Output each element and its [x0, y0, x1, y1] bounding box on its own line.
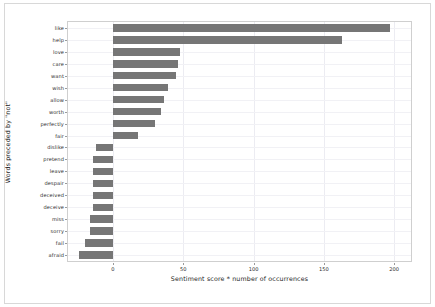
bar: [79, 251, 113, 258]
y-axis-tick-label: fair: [55, 133, 64, 139]
bar: [113, 72, 176, 79]
x-axis-tick-label: 100: [249, 266, 259, 272]
y-axis-tick-label: help: [53, 37, 64, 43]
gridline-horizontal: [68, 195, 411, 196]
bar: [113, 96, 164, 103]
bar: [113, 108, 161, 115]
y-axis-tick-label: deceive: [43, 204, 64, 210]
bar: [90, 215, 112, 222]
x-axis-tick-labels: 050100150200: [67, 263, 412, 275]
gridline-horizontal: [68, 219, 411, 220]
gridline-vertical: [254, 22, 255, 261]
y-axis-tick-label: despair: [44, 180, 64, 186]
y-axis-tick-label: worth: [49, 109, 64, 115]
gridline-horizontal: [68, 159, 411, 160]
bar: [85, 239, 113, 246]
bar: [93, 192, 113, 199]
y-axis-tick-label: want: [51, 73, 64, 79]
plot-area: [67, 21, 412, 262]
y-axis-tick-label: miss: [52, 216, 64, 222]
bar: [90, 227, 112, 234]
x-axis-tick-label: 150: [319, 266, 329, 272]
bar: [113, 60, 178, 67]
gridline-vertical: [324, 22, 325, 261]
y-axis-tick-label: care: [53, 61, 64, 67]
bar: [113, 24, 390, 31]
bar: [93, 180, 113, 187]
gridline-horizontal: [68, 147, 411, 148]
bar: [96, 144, 113, 151]
bar: [113, 132, 138, 139]
y-axis-tick-label: afraid: [49, 252, 64, 258]
gridline-horizontal: [68, 231, 411, 232]
x-axis-tick-mark: [113, 263, 114, 265]
y-axis-tick-label: love: [53, 49, 64, 55]
gridline-horizontal: [68, 183, 411, 184]
y-axis-tick-label: dislike: [47, 144, 64, 150]
gridline-vertical: [394, 22, 395, 261]
x-axis-tick-mark: [394, 263, 395, 265]
x-axis-tick-label: 50: [180, 266, 186, 272]
bar: [113, 48, 180, 55]
y-axis-tick-label: pretend: [43, 156, 64, 162]
gridline-horizontal: [68, 255, 411, 256]
x-axis-tick-label: 200: [389, 266, 399, 272]
bar: [113, 120, 155, 127]
gridline-vertical: [113, 22, 114, 261]
bar: [113, 84, 168, 91]
x-axis-tick-label: 0: [111, 266, 114, 272]
y-axis-label: Words preceded by "not": [4, 100, 11, 182]
bar: [113, 36, 342, 43]
y-axis-tick-label: leave: [50, 168, 64, 174]
x-axis-tick-mark: [183, 263, 184, 265]
y-axis-tick-labels: likehelplovecarewantwishallowworthperfec…: [18, 21, 64, 262]
x-axis-tick-mark: [324, 263, 325, 265]
gridline-vertical: [183, 22, 184, 261]
x-axis-tick-mark: [254, 263, 255, 265]
gridline-horizontal: [68, 243, 411, 244]
y-axis-tick-label: fail: [56, 240, 64, 246]
bar: [93, 168, 113, 175]
y-axis-tick-label: allow: [50, 97, 64, 103]
gridline-horizontal: [68, 207, 411, 208]
bar: [93, 156, 113, 163]
y-axis-tick-label: perfectly: [40, 121, 64, 127]
y-axis-tick-label: deceived: [40, 192, 64, 198]
x-axis-label: Sentiment score * number of occurrences: [67, 275, 412, 282]
bar: [93, 204, 113, 211]
figure: Words preceded by "not" likehelplovecare…: [0, 0, 435, 307]
y-axis-tick-label: like: [55, 25, 64, 31]
y-axis-tick-label: sorry: [51, 228, 64, 234]
y-axis-label-wrapper: Words preceded by "not": [0, 21, 14, 262]
y-axis-tick-label: wish: [52, 85, 64, 91]
gridline-horizontal: [68, 171, 411, 172]
